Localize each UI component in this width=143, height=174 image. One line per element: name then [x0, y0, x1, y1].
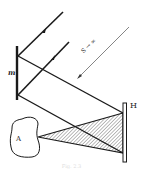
figure-caption: Fig. 2.3 [0, 163, 143, 169]
hologram-plate-H [123, 103, 127, 162]
object-label: A [16, 136, 21, 143]
object-A-blob [10, 117, 39, 157]
hologram-recording-diagram [0, 0, 143, 174]
incident-ray-2 [18, 42, 69, 95]
object-beam-hatched-region [38, 113, 123, 153]
incident-ray-1 [18, 12, 63, 56]
mirror-label: m [8, 69, 15, 76]
plate-label: H [130, 102, 137, 110]
source-direction-line [79, 27, 129, 77]
